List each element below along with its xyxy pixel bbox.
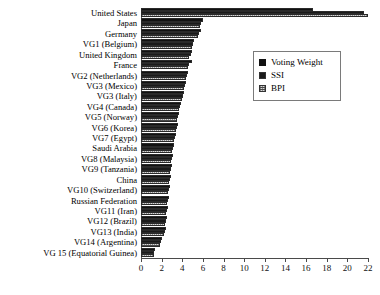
- x-tick-label: 4: [173, 263, 191, 274]
- bar-bpi: [141, 160, 171, 163]
- bar-bpi: [141, 129, 176, 132]
- bar-bpi: [141, 212, 166, 215]
- bar-bpi: [141, 171, 170, 174]
- x-axis-line: [141, 258, 369, 259]
- chart-row: VG13 (India): [0, 227, 380, 237]
- legend-label-bpi: BPI: [271, 83, 285, 94]
- bar-bpi: [141, 243, 160, 246]
- category-label: VG1 (Belgium): [0, 39, 137, 49]
- bar-bpi: [141, 56, 189, 59]
- x-tick-label: 10: [235, 263, 253, 274]
- x-tick-label: 16: [297, 263, 315, 274]
- category-label: VG12 (Brazil): [0, 216, 137, 226]
- category-label: VG8 (Malaysia): [0, 154, 137, 164]
- chart-row: Japan: [0, 18, 380, 28]
- chart-row: VG8 (Malaysia): [0, 154, 380, 164]
- x-tick-label: 20: [338, 263, 356, 274]
- legend-label-ssi: SSI: [271, 70, 284, 81]
- category-label: VG3 (Mexico): [0, 81, 137, 91]
- chart-row: Russian Federation: [0, 196, 380, 206]
- bar-bpi: [141, 181, 169, 184]
- x-tick-label: 12: [256, 263, 274, 274]
- x-tick-label: 22: [359, 263, 377, 274]
- chart-row: China: [0, 175, 380, 185]
- legend-item-bpi: BPI: [259, 82, 335, 95]
- category-label: VG3 (Italy): [0, 91, 137, 101]
- bar-bpi: [141, 118, 177, 121]
- chart-row: VG12 (Brazil): [0, 216, 380, 226]
- bar-bpi: [141, 66, 188, 69]
- category-label: VG7 (Egypt): [0, 133, 137, 143]
- chart-row: VG11 (Iran): [0, 206, 380, 216]
- legend-item-ssi: SSI: [259, 69, 335, 82]
- category-label: VG5 (Norway): [0, 112, 137, 122]
- x-tick: [244, 258, 245, 262]
- category-label: VG11 (Iran): [0, 206, 137, 216]
- category-label: France: [0, 60, 137, 70]
- x-tick-label: 18: [318, 263, 336, 274]
- chart-row: VG4 (Canada): [0, 102, 380, 112]
- legend-swatch-voting-weight-icon: [259, 59, 266, 66]
- category-label: United Kingdom: [0, 50, 137, 60]
- category-label: VG6 (Korea): [0, 123, 137, 133]
- bar-bpi: [141, 139, 174, 142]
- category-label: Germany: [0, 29, 137, 39]
- bar-bpi: [141, 35, 198, 38]
- bar-bpi: [141, 223, 165, 226]
- chart-row: VG6 (Korea): [0, 123, 380, 133]
- x-tick: [285, 258, 286, 262]
- bar-bpi: [141, 77, 186, 80]
- bar-chart: United StatesJapanGermanyVG1 (Belgium)Un…: [0, 0, 380, 295]
- category-label: VG 15 (Equatorial Guinea): [0, 248, 137, 258]
- x-tick-label: 8: [215, 263, 233, 274]
- chart-row: Germany: [0, 29, 380, 39]
- chart-row: Saudi Arabia: [0, 143, 380, 153]
- bar-bpi: [141, 191, 168, 194]
- category-label: VG9 (Tanzania): [0, 164, 137, 174]
- x-tick-label: 6: [194, 263, 212, 274]
- x-tick-label: 0: [132, 263, 150, 274]
- legend-swatch-bpi-icon: [259, 85, 266, 92]
- legend-item-voting-weight: Voting Weight: [259, 56, 335, 69]
- bar-bpi: [141, 233, 164, 236]
- chart-row: VG7 (Egypt): [0, 133, 380, 143]
- bar-bpi: [141, 87, 184, 90]
- x-tick: [368, 258, 369, 262]
- category-label: VG14 (Argentina): [0, 237, 137, 247]
- bar-bpi: [141, 98, 182, 101]
- legend-swatch-ssi-icon: [259, 72, 266, 79]
- chart-row: VG9 (Tanzania): [0, 164, 380, 174]
- category-label: VG4 (Canada): [0, 102, 137, 112]
- chart-row: VG 15 (Equatorial Guinea): [0, 248, 380, 258]
- bar-bpi: [141, 150, 172, 153]
- category-label: VG10 (Switzerland): [0, 185, 137, 195]
- bar-bpi: [141, 254, 154, 257]
- category-label: China: [0, 175, 137, 185]
- category-label: Japan: [0, 18, 137, 28]
- category-label: United States: [0, 8, 137, 18]
- legend-label-voting-weight: Voting Weight: [271, 57, 323, 68]
- category-label: VG2 (Netherlands): [0, 71, 137, 81]
- x-tick: [224, 258, 225, 262]
- x-tick: [141, 258, 142, 262]
- chart-row: United States: [0, 8, 380, 18]
- category-label: Saudi Arabia: [0, 143, 137, 153]
- category-label: Russian Federation: [0, 196, 137, 206]
- chart-row: VG1 (Belgium): [0, 39, 380, 49]
- category-label: VG13 (India): [0, 227, 137, 237]
- x-tick-label: 2: [153, 263, 171, 274]
- x-tick: [306, 258, 307, 262]
- chart-row: VG14 (Argentina): [0, 237, 380, 247]
- chart-row: VG5 (Norway): [0, 112, 380, 122]
- bar-bpi: [141, 14, 368, 17]
- bar-bpi: [141, 46, 192, 49]
- bar-bpi: [141, 108, 179, 111]
- x-tick: [203, 258, 204, 262]
- x-tick: [327, 258, 328, 262]
- x-tick: [347, 258, 348, 262]
- chart-legend: Voting Weight SSI BPI: [253, 51, 341, 101]
- bar-bpi: [141, 202, 167, 205]
- x-tick-label: 14: [276, 263, 294, 274]
- chart-row: VG10 (Switzerland): [0, 185, 380, 195]
- x-tick: [182, 258, 183, 262]
